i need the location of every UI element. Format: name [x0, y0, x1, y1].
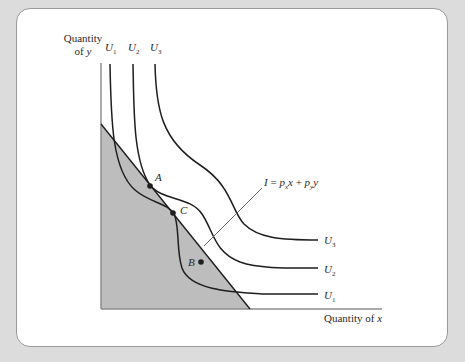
y-axis-label-line2: of y — [75, 45, 92, 57]
point-a — [147, 183, 153, 189]
u2-top-label: U2 — [128, 41, 140, 56]
budget-line-equation: I = pxx + pyy — [263, 176, 318, 191]
x-axis-label: Quantity of x — [324, 312, 382, 324]
u3-right-label: U3 — [324, 234, 336, 249]
point-c-label: C — [180, 204, 188, 216]
u3-top-label: U3 — [150, 41, 162, 56]
u1-top-label: U1 — [105, 41, 117, 56]
indifference-curve-diagram: A C B Quantity of y Quantity of x U1 U2 … — [0, 0, 465, 362]
u1-right-label: U1 — [324, 289, 336, 304]
budget-label-leader — [204, 188, 262, 246]
point-c — [170, 210, 176, 216]
point-a-label: A — [154, 171, 162, 183]
u2-right-label: U2 — [324, 263, 336, 278]
point-b — [198, 259, 204, 265]
y-axis-label-line1: Quantity — [64, 32, 103, 44]
point-b-label: B — [188, 256, 195, 268]
